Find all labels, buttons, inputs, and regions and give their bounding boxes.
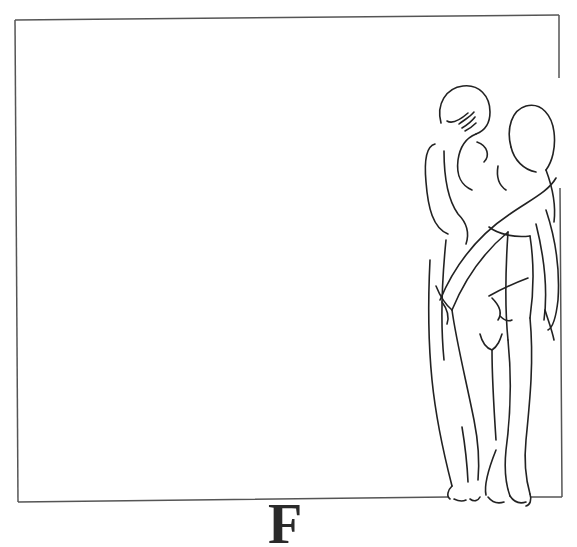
left-figure [425, 86, 490, 501]
figures-line-art [425, 86, 558, 506]
frame [15, 15, 562, 502]
frame-right-edge [559, 15, 562, 497]
chapter-letter: F [268, 496, 302, 547]
frame-top-edge [15, 15, 559, 20]
frame-left-edge [15, 20, 18, 502]
